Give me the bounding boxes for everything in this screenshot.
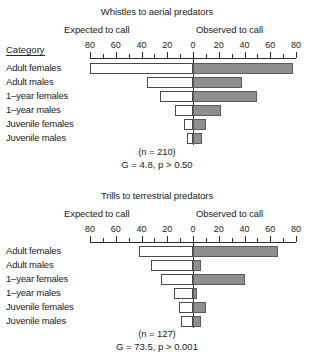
axis-minor-tick xyxy=(180,54,181,58)
axis-tick-label: 40 xyxy=(136,40,146,50)
axis-tick-label: 60 xyxy=(265,40,275,50)
axis-minor-tick xyxy=(129,54,130,58)
row-label: 1–year males xyxy=(6,287,61,298)
axis-minor-tick xyxy=(154,238,155,242)
bar-observed xyxy=(193,316,201,327)
legend-label-observed: Observed to call xyxy=(196,208,263,219)
axis-minor-tick xyxy=(257,54,258,58)
axis-minor-tick xyxy=(283,238,284,242)
axis-minor-tick xyxy=(232,238,233,242)
bar-observed xyxy=(193,133,202,144)
bar-expected xyxy=(174,288,193,299)
row-label: Adult males xyxy=(6,76,53,87)
chart-panel-trills: Trills to terrestrial predators Expected… xyxy=(0,186,314,360)
butterfly-charts-figure: Whistles to aerial predators Expected to… xyxy=(0,0,314,360)
bar-observed xyxy=(193,63,293,74)
axis-minor-tick xyxy=(129,238,130,242)
axis-tick-label: 20 xyxy=(162,40,172,50)
axis-major-tick xyxy=(245,52,246,58)
bar-observed xyxy=(193,246,278,257)
axis-minor-tick xyxy=(103,54,104,58)
axis-minor-tick xyxy=(232,54,233,58)
axis-major-tick xyxy=(116,52,117,58)
axis-minor-tick xyxy=(154,54,155,58)
axis-major-tick xyxy=(90,236,91,242)
axis-tick-labels: 80604020020406080 xyxy=(90,224,296,236)
axis-minor-tick xyxy=(283,54,284,58)
bar-expected xyxy=(179,302,193,313)
row-label: 1–year females xyxy=(6,273,68,284)
axis-tick-label: 0 xyxy=(190,40,195,50)
axis-tick-label: 80 xyxy=(85,40,95,50)
bar-expected xyxy=(161,274,193,285)
sample-size-label: (n = 210) xyxy=(0,146,314,157)
axis-major-tick xyxy=(142,52,143,58)
legend-label-expected: Expected to call xyxy=(64,208,129,219)
legend-label-expected: Expected to call xyxy=(64,24,129,35)
bar-observed xyxy=(193,77,242,88)
row-label: Juvenile males xyxy=(6,132,66,143)
axis-major-tick xyxy=(142,236,143,242)
axis-major-tick xyxy=(296,236,297,242)
axis-minor-tick xyxy=(206,54,207,58)
axis-minor-tick xyxy=(103,238,104,242)
axis-tick-label: 40 xyxy=(239,40,249,50)
bar-expected xyxy=(175,105,193,116)
axis-tick-label: 40 xyxy=(239,224,249,234)
bar-expected xyxy=(181,316,193,327)
axis-minor-tick xyxy=(180,238,181,242)
axis-major-tick xyxy=(219,52,220,58)
axis-tick-label: 80 xyxy=(291,40,301,50)
axis-tick-label: 20 xyxy=(214,224,224,234)
bar-observed xyxy=(193,260,201,271)
axis-minor-tick xyxy=(206,238,207,242)
axis-major-tick xyxy=(270,236,271,242)
axis-tick-label: 40 xyxy=(136,224,146,234)
axis-major-tick xyxy=(90,52,91,58)
axis-major-tick xyxy=(167,52,168,58)
axis-tick-label: 60 xyxy=(111,40,121,50)
row-label: Adult males xyxy=(6,259,53,270)
bar-observed xyxy=(193,288,197,299)
row-label: Juvenile males xyxy=(6,315,66,326)
statistic-label: G = 73.5, p > 0.001 xyxy=(0,341,314,352)
sample-size-label: (n = 127) xyxy=(0,328,314,339)
axis-major-tick xyxy=(116,236,117,242)
statistic-label: G = 4.8, p > 0.50 xyxy=(0,159,314,170)
legend-label-observed: Observed to call xyxy=(196,24,263,35)
axis-major-tick xyxy=(167,236,168,242)
bar-expected xyxy=(90,63,193,74)
axis-tick-label: 20 xyxy=(162,224,172,234)
bar-observed xyxy=(193,119,206,130)
bar-observed xyxy=(193,274,245,285)
bar-expected xyxy=(151,260,193,271)
bar-expected xyxy=(147,77,193,88)
axis-tick-label: 20 xyxy=(214,40,224,50)
row-label: 1–year females xyxy=(6,90,68,101)
axis-tick-label: 60 xyxy=(265,224,275,234)
category-column-header: Category xyxy=(6,44,45,56)
axis-major-tick xyxy=(245,236,246,242)
bar-observed xyxy=(193,302,206,313)
axis-major-tick xyxy=(270,52,271,58)
axis-tick-label: 0 xyxy=(190,224,195,234)
axis-major-tick xyxy=(296,52,297,58)
chart-title: Trills to terrestrial predators xyxy=(0,190,314,201)
row-label: Adult females xyxy=(6,245,61,256)
axis-tick-label: 80 xyxy=(291,224,301,234)
axis-minor-tick xyxy=(257,238,258,242)
chart-title: Whistles to aerial predators xyxy=(0,6,314,17)
bar-expected xyxy=(184,119,193,130)
row-label: Juvenile females xyxy=(6,118,74,129)
row-label: Adult females xyxy=(6,62,61,73)
bar-observed xyxy=(193,105,221,116)
bar-expected xyxy=(139,246,193,257)
row-label: 1–year males xyxy=(6,104,61,115)
axis-tick-labels: 80604020020406080 xyxy=(90,40,296,52)
axis-tick-label: 80 xyxy=(85,224,95,234)
bar-observed xyxy=(193,91,257,102)
chart-panel-whistles: Whistles to aerial predators Expected to… xyxy=(0,0,314,180)
axis-tick-label: 60 xyxy=(111,224,121,234)
bar-expected xyxy=(160,91,193,102)
axis-major-tick xyxy=(219,236,220,242)
